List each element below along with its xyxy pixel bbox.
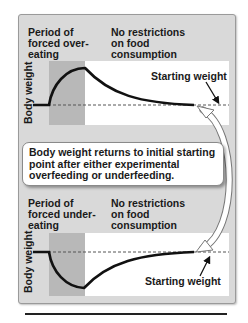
top-starting-weight-label: Starting weight [151,70,227,82]
bottom-period-label: Period of forced under- eating [28,198,96,231]
bottom-starting-weight-label: Starting weight [145,275,221,287]
forced-overeating-shade [49,61,85,125]
bottom-y-axis-label: Body weight [22,231,34,293]
explanation-callout: Body weight returns to initial starting … [22,142,224,186]
top-period-label: Period of forced over- eating [28,27,89,60]
top-y-axis-label: Body weight [22,62,34,124]
top-free-label: No restrictions on food consumption [111,27,185,60]
caption-rule [25,313,227,315]
bottom-free-label: No restrictions on food consumption [111,198,185,231]
